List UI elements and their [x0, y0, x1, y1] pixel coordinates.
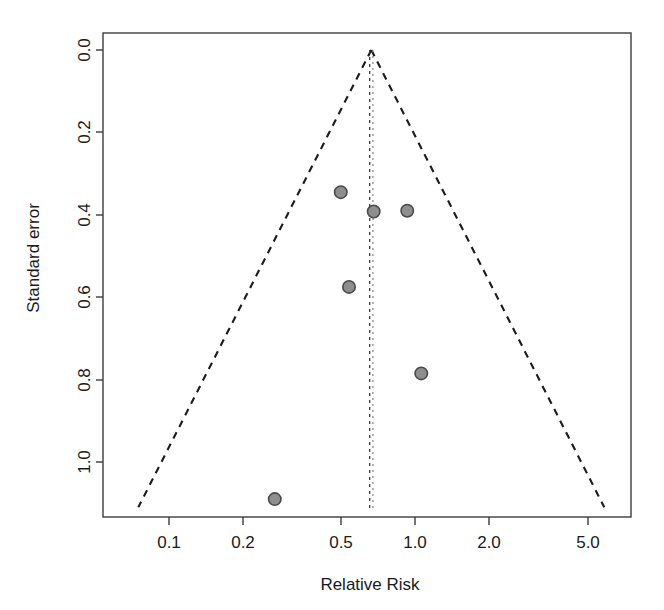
x-axis-title: Relative Risk: [320, 575, 420, 594]
x-tick-label-3: 1.0: [403, 533, 427, 552]
study-point-2: [401, 204, 413, 216]
y-axis-title: Standard error: [24, 203, 43, 313]
y-tick-label-4: 0.8: [75, 368, 94, 392]
x-tick-label-1: 0.2: [231, 533, 255, 552]
y-tick-label-5: 1.0: [75, 450, 94, 474]
funnel-plot-figure: 0.0 0.2 0.4 0.6 0.8 1.0 Standard error 0…: [0, 0, 664, 610]
x-tick-label-4: 2.0: [477, 533, 501, 552]
plot-background: [0, 0, 664, 610]
y-tick-label-3: 0.6: [75, 285, 94, 309]
funnel-plot-canvas: 0.0 0.2 0.4 0.6 0.8 1.0 Standard error 0…: [0, 0, 664, 610]
study-point-1: [368, 205, 380, 217]
study-point-4: [415, 367, 427, 379]
study-point-0: [335, 186, 347, 198]
y-tick-label-2: 0.4: [75, 203, 94, 227]
x-tick-label-2: 0.5: [329, 533, 353, 552]
y-tick-label-0: 0.0: [75, 38, 94, 62]
x-tick-label-0: 0.1: [157, 533, 181, 552]
y-tick-label-1: 0.2: [75, 120, 94, 144]
study-point-3: [343, 281, 355, 293]
study-point-5: [269, 493, 281, 505]
x-tick-label-5: 5.0: [576, 533, 600, 552]
